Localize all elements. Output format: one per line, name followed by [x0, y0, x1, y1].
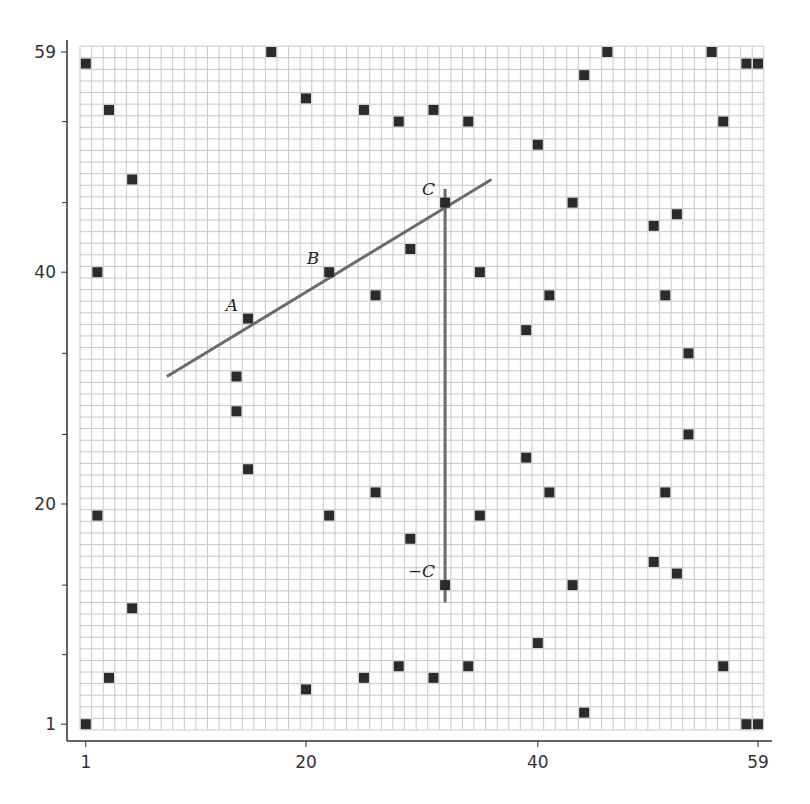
data-point-square: [672, 569, 682, 579]
data-point-square: [718, 661, 728, 671]
data-point-square: [440, 198, 450, 208]
data-point-square: [371, 487, 381, 497]
data-point-square: [521, 453, 531, 463]
data-point-square: [568, 198, 578, 208]
data-point-square: [301, 93, 311, 103]
data-point-square: [81, 59, 91, 69]
data-point-square: [127, 603, 137, 613]
data-point-square: [405, 534, 415, 544]
data-point-square: [579, 70, 589, 80]
data-point-square: [428, 673, 438, 683]
data-point-square: [683, 429, 693, 439]
data-point-square: [579, 708, 589, 718]
data-point-square: [544, 487, 554, 497]
data-point-square: [475, 511, 485, 521]
data-point-square: [440, 580, 450, 590]
data-point-square: [649, 221, 659, 231]
point-label-neg-C: −C: [408, 561, 435, 581]
data-point-square: [660, 487, 670, 497]
data-point-square: [602, 47, 612, 57]
data-point-square: [741, 59, 751, 69]
data-point-square: [672, 209, 682, 219]
data-point-square: [649, 557, 659, 567]
data-point-square: [533, 140, 543, 150]
data-point-square: [266, 47, 276, 57]
y-tick-label: 40: [34, 262, 56, 282]
elliptic-curve-scatter-plot: 12040591204059 ABC−C: [0, 0, 810, 804]
data-point-square: [301, 684, 311, 694]
data-point-square: [660, 290, 670, 300]
data-point-square: [81, 719, 91, 729]
data-point-square: [405, 244, 415, 254]
data-point-square: [243, 464, 253, 474]
data-point-square: [231, 406, 241, 416]
data-point-square: [127, 174, 137, 184]
data-point-square: [359, 105, 369, 115]
data-point-square: [753, 59, 763, 69]
y-tick-label: 1: [45, 714, 56, 734]
data-point-square: [92, 267, 102, 277]
data-point-square: [475, 267, 485, 277]
data-point-square: [394, 117, 404, 127]
data-point-square: [463, 661, 473, 671]
data-point-square: [683, 348, 693, 358]
data-point-square: [568, 580, 578, 590]
data-point-square: [231, 372, 241, 382]
data-point-square: [359, 673, 369, 683]
data-point-square: [533, 638, 543, 648]
data-point-square: [521, 325, 531, 335]
point-label-A: A: [224, 295, 238, 315]
data-point-square: [394, 661, 404, 671]
data-point-square: [718, 117, 728, 127]
grid-lines: [80, 46, 764, 730]
data-point-square: [324, 267, 334, 277]
y-tick-label: 59: [34, 42, 56, 62]
data-points: [81, 47, 763, 729]
y-tick-label: 20: [34, 494, 56, 514]
data-point-square: [544, 290, 554, 300]
data-point-square: [741, 719, 751, 729]
x-tick-label: 1: [80, 752, 91, 772]
x-tick-label: 20: [295, 752, 317, 772]
data-point-square: [707, 47, 717, 57]
data-point-square: [428, 105, 438, 115]
point-label-C: C: [422, 179, 435, 199]
data-point-square: [463, 117, 473, 127]
x-tick-label: 40: [527, 752, 549, 772]
data-point-square: [371, 290, 381, 300]
data-point-square: [104, 105, 114, 115]
data-point-square: [92, 511, 102, 521]
x-tick-label: 59: [747, 752, 769, 772]
data-point-square: [324, 511, 334, 521]
point-label-B: B: [306, 248, 320, 268]
point-labels: ABC−C: [224, 179, 435, 581]
data-point-square: [104, 673, 114, 683]
data-point-square: [243, 314, 253, 324]
data-point-square: [753, 719, 763, 729]
